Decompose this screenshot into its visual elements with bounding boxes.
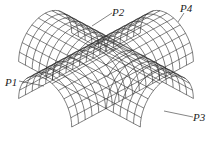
label-p2: P2	[112, 7, 124, 18]
wireframe-mesh	[19, 10, 194, 127]
label-p3: P3	[193, 112, 205, 123]
label-p4: P4	[180, 3, 192, 14]
label-p1: P1	[5, 77, 17, 88]
groin-vault-mesh-diagram	[0, 0, 213, 148]
